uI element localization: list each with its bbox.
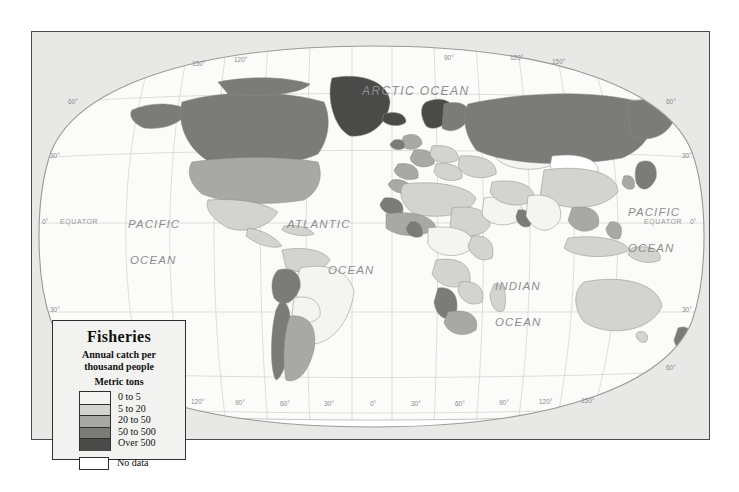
legend-row-no-data[interactable]: No data <box>79 457 185 470</box>
legend-label-50-to-500: 50 to 500 <box>118 426 156 437</box>
lon-label-bot-90e: 90° <box>499 399 509 406</box>
lon-label-top-120w: 120° <box>234 56 247 63</box>
legend-label-over-500: Over 500 <box>118 437 156 448</box>
legend-row-5-to-20[interactable]: 5 to 20 <box>80 404 110 416</box>
lon-label-bot-60e: 60° <box>455 400 465 407</box>
legend-swatch-block: 0 to 5 5 to 20 20 to 50 50 to 500 Over 5… <box>79 391 111 451</box>
region-canada <box>180 93 328 166</box>
lon-label-top-150e: 150° <box>552 58 565 65</box>
lon-label-bot-150e: 150° <box>581 397 594 404</box>
lat-label-30s-left: 30° <box>50 306 60 313</box>
lat-label-60n-right: 60° <box>666 98 676 105</box>
lat-label-30n-right: 30° <box>682 152 692 159</box>
lon-label-top-90e: 90° <box>444 54 454 61</box>
lon-label-bot-30e: 30° <box>411 400 421 407</box>
lat-label-30s-right: 30° <box>682 306 692 313</box>
legend-subtitle-line2: thousand people <box>53 361 185 373</box>
region-united-states <box>189 158 320 204</box>
lon-label-bot-60w: 60° <box>280 400 290 407</box>
equator-label-left: EQUATOR <box>60 218 98 225</box>
equator-label-right: EQUATOR <box>644 218 682 225</box>
map-page: ARCTIC OCEAN PACIFIC OCEAN ATLANTIC OCEA… <box>0 0 739 492</box>
lat-label-60s-right: 60° <box>666 364 676 371</box>
legend-swatch-0-to-5 <box>80 392 110 404</box>
lon-label-top-150w: 150° <box>192 60 205 67</box>
lon-label-bot-120e: 120° <box>539 398 552 405</box>
lon-label-bot-30w: 30° <box>324 400 334 407</box>
legend-label-0-to-5: 0 to 5 <box>118 391 141 402</box>
legend-units: Metric tons <box>53 376 185 387</box>
legend-subtitle: Annual catch per thousand people <box>53 349 185 372</box>
lon-label-bot-120w: 120° <box>191 398 204 405</box>
lat-label-60n-left: 60° <box>68 98 78 105</box>
lat-label-30n-left: 30° <box>50 152 60 159</box>
lon-label-bot-90w: 90° <box>235 399 245 406</box>
legend-row-50-to-500[interactable]: 50 to 500 <box>80 427 110 439</box>
legend-row-over-500[interactable]: Over 500 <box>80 438 110 450</box>
legend-swatch-no-data <box>79 457 109 470</box>
legend-label-20-to-50: 20 to 50 <box>118 414 151 425</box>
lon-label-bot-0: 0° <box>370 400 376 407</box>
legend-row-0-to-5[interactable]: 0 to 5 <box>80 392 110 404</box>
legend-row-20-to-50[interactable]: 20 to 50 <box>80 415 110 427</box>
legend-subtitle-line1: Annual catch per <box>53 349 185 361</box>
legend-title: Fisheries <box>53 328 185 346</box>
lon-label-top-120e: 120° <box>510 54 523 61</box>
lat-label-0-right: 0° <box>690 218 696 225</box>
legend-swatch-over-500 <box>80 438 110 451</box>
map-legend: Fisheries Annual catch per thousand peop… <box>52 320 186 460</box>
legend-label-5-to-20: 5 to 20 <box>118 403 146 414</box>
region-russia <box>465 94 653 164</box>
legend-label-no-data: No data <box>117 457 148 468</box>
lat-label-0-left: 0° <box>42 218 48 225</box>
